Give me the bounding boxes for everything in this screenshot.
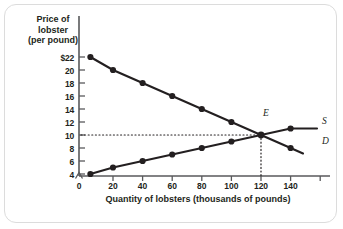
y-tick-marks <box>79 57 85 174</box>
equilibrium-point-marker <box>258 132 265 139</box>
demand-point-100-12 <box>228 119 234 125</box>
chart-svg <box>0 0 343 229</box>
demand-point-60-16 <box>169 93 175 99</box>
supply-point-80-8 <box>199 145 205 151</box>
figure-container: Price of lobster (per pound) Quantity of… <box>0 0 343 229</box>
demand-point-5-22 <box>87 54 93 60</box>
supply-point-20-5 <box>110 164 116 170</box>
supply-point-5-4 <box>87 171 93 177</box>
supply-point-60-7 <box>169 151 175 157</box>
demand-point-140-8 <box>288 145 294 151</box>
supply-point-40-6 <box>140 158 146 164</box>
demand-point-20-20 <box>110 67 116 73</box>
supply-point-100-9 <box>228 138 234 144</box>
supply-point-140-11 <box>288 125 294 131</box>
demand-point-80-14 <box>199 106 205 112</box>
demand-point-40-18 <box>140 80 146 86</box>
